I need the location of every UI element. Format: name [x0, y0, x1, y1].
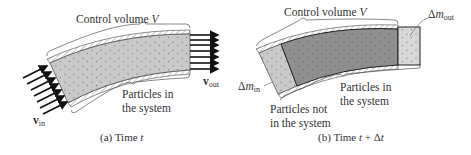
particles-not-label: Particles not in the system: [270, 103, 331, 129]
panel-a: [23, 22, 218, 114]
cv-label-b: Control volume V: [284, 6, 366, 18]
dm-in-label: Δmin: [238, 80, 260, 96]
diagram-canvas: [0, 0, 471, 155]
cv-label-a: Control volume V: [76, 13, 158, 25]
v-out-label: vout: [203, 75, 219, 91]
particles-label-a: Particles in the system: [122, 88, 173, 114]
v-in-label: vin: [33, 114, 45, 130]
dm-out-label: Δmout: [428, 8, 454, 24]
caption-b: (b) Time t + Δt: [318, 131, 384, 143]
caption-a: (a) Time t: [100, 131, 143, 143]
outlet-arrows: [190, 35, 218, 69]
particles-in-label-b: Particles in the system: [340, 81, 391, 107]
dm-in-leader: [264, 82, 272, 86]
